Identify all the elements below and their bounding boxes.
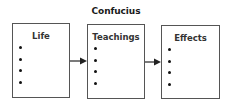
- arrow-right-icon: [145, 59, 161, 66]
- arrow-right-icon: [70, 58, 87, 65]
- arrows-layer: [0, 0, 231, 110]
